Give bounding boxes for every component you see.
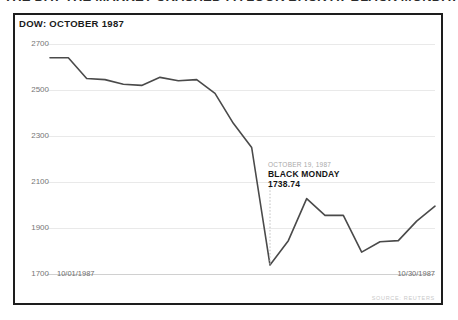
- clipped-headline-strip: THE DAY THE MARKET CRASHED : A LOOK BACK…: [0, 0, 458, 11]
- source-credit: SOURCE: REUTERS: [372, 295, 435, 301]
- annotation-date: OCTOBER 19, 1987: [268, 161, 340, 169]
- plot-area: 2700 2500 2300 2100 1900 1700 OCTOBER 19…: [15, 15, 441, 303]
- clipped-headline-text: THE DAY THE MARKET CRASHED : A LOOK BACK…: [4, 0, 458, 4]
- xaxis-start-label: 10/01/1987: [57, 269, 95, 278]
- xaxis-end-label: 10/30/1987: [397, 269, 435, 278]
- annotation-title: BLACK MONDAY: [268, 169, 340, 179]
- annotation-value: 1738.74: [268, 179, 340, 189]
- series-polyline: [50, 58, 435, 265]
- dow-price-line-series: [15, 15, 445, 307]
- chart-frame: DOW: OCTOBER 1987 2700 2500 2300 2100 19…: [13, 13, 443, 305]
- black-monday-annotation: OCTOBER 19, 1987 BLACK MONDAY 1738.74: [268, 161, 340, 189]
